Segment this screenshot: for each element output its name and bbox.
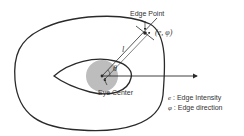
length-symbol: l [122,46,124,54]
edge-tuple-label: (e, φ) [155,29,172,37]
eye-center-dot [101,75,104,78]
legend-item-intensity: e : Edge Intensity [168,94,222,102]
legend: e : Edge Intensity φ : Edge direction [168,94,222,112]
radius-line [102,18,157,76]
legend-description: : Edge Intensity [173,94,221,101]
legend-item-direction: φ : Edge direction [168,104,222,112]
legend-description: : Edge direction [174,104,223,111]
angle-symbol: θ [113,65,117,73]
legend-symbol: φ [168,104,172,112]
eye-edge-diagram [0,0,244,136]
edge-point-label: Edge Point [130,10,164,17]
eye-center-label: Eye Center [98,89,133,96]
edge-point-dot [143,31,147,35]
legend-symbol: e [168,94,171,102]
